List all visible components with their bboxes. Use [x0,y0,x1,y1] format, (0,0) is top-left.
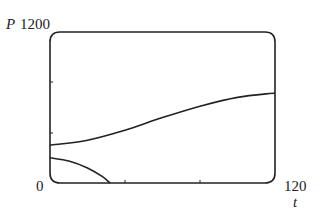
y-max-label: 1200 [20,17,50,32]
plot-frame [50,32,275,183]
x-max-label: 120 [284,179,307,194]
upper-curve [50,93,275,145]
lower-curve [50,158,110,183]
chart-canvas [0,0,326,224]
x-axis-label: t [293,195,297,210]
y-axis-label: P [6,17,15,32]
origin-label: 0 [36,179,44,194]
axis-ticks [50,82,200,183]
